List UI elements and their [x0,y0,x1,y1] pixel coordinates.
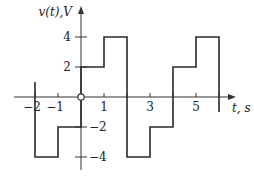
y-tick-label: 2 [63,60,71,74]
y-tick-label: −2 [89,120,107,134]
x-tick-label: 3 [146,100,154,114]
y-tick-label: −4 [89,150,107,164]
y-axis-label: v(t),V [39,5,74,19]
axes [14,6,236,170]
x-tick-label: 5 [192,100,200,114]
y-tick-label: 4 [63,30,71,44]
y-axis-arrow-icon [78,6,84,14]
x-axis-label: t, s [232,101,251,115]
x-tick-label: −2 [23,100,41,114]
x-tick-label: −1 [46,100,64,114]
x-tick-label: 1 [100,100,108,114]
x-axis-arrow-icon [228,94,236,100]
step-waveform-chart: v(t),V t, s −2−113542−2−4 [0,0,254,176]
origin-open-circle-icon [78,94,84,100]
